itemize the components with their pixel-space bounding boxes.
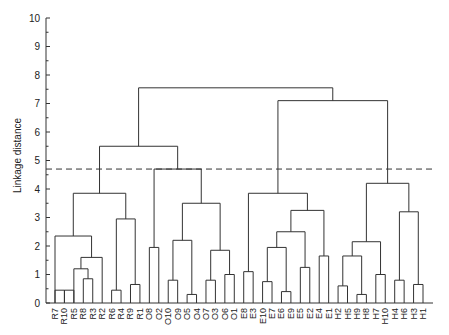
y-tick-label: 2 — [34, 241, 40, 252]
dendrogram-link — [352, 242, 380, 275]
dendrogram-link — [343, 256, 362, 294]
dendrogram-link — [300, 267, 309, 303]
dendrogram-link — [338, 286, 347, 303]
dendrogram-link — [182, 203, 220, 250]
dendrogram-link — [281, 292, 290, 303]
dendrogram-link — [116, 219, 135, 290]
dendrogram-link — [248, 193, 307, 271]
dendrogram-link — [366, 183, 408, 241]
dendrogram-link — [267, 247, 286, 291]
dendrogram-link — [376, 275, 385, 304]
dendrogram-link — [263, 282, 272, 303]
dendrogram-link — [81, 257, 102, 303]
dendrogram-link — [74, 269, 88, 303]
dendrogram-link — [112, 290, 121, 303]
dendrogram-link — [414, 284, 423, 303]
y-tick-label: 5 — [34, 155, 40, 166]
y-tick-label: 3 — [34, 212, 40, 223]
dendrogram-link — [206, 280, 215, 303]
dendrogram-link — [55, 290, 64, 303]
dendrogram-link — [244, 272, 253, 303]
y-tick-label: 1 — [34, 269, 40, 280]
dendrogram-link — [149, 247, 158, 303]
y-tick-label: 4 — [34, 184, 40, 195]
dendrogram-link — [277, 232, 305, 268]
dendrogram-link — [139, 88, 333, 146]
dendrogram-link — [211, 250, 230, 280]
dendrogram-link — [130, 284, 139, 303]
dendrogram-link — [187, 294, 196, 303]
dendrogram-link — [357, 294, 366, 303]
y-tick-label: 10 — [29, 13, 41, 24]
dendrogram-link — [173, 240, 192, 294]
dendrogram-link — [83, 279, 92, 303]
y-tick-label: 6 — [34, 127, 40, 138]
dendrogram-link — [73, 193, 125, 236]
dendrogram-link — [399, 212, 418, 285]
dendrogram-link — [55, 236, 92, 303]
dendrogram-chart: 012345678910R7R10R5R8R3R2R6R4R9R1O8O2O10… — [0, 0, 449, 335]
y-axis-label: Linkage distance — [12, 111, 23, 201]
dendrogram-link — [154, 169, 201, 247]
dendrogram-plot: 012345678910R7R10R5R8R3R2R6R4R9R1O8O2O10… — [0, 0, 449, 335]
y-tick-label: 9 — [34, 41, 40, 52]
y-tick-label: 7 — [34, 98, 40, 109]
dendrogram-link — [168, 280, 177, 303]
leaf-label: H1 — [418, 308, 428, 320]
dendrogram-link — [225, 275, 234, 304]
y-tick-label: 8 — [34, 70, 40, 81]
dendrogram-link — [100, 146, 178, 193]
y-tick-label: 0 — [34, 298, 40, 309]
dendrogram-link — [291, 210, 324, 256]
dendrogram-link — [278, 101, 388, 194]
dendrogram-link — [64, 290, 73, 303]
dendrogram-link — [395, 280, 404, 303]
dendrogram-link — [319, 256, 328, 303]
